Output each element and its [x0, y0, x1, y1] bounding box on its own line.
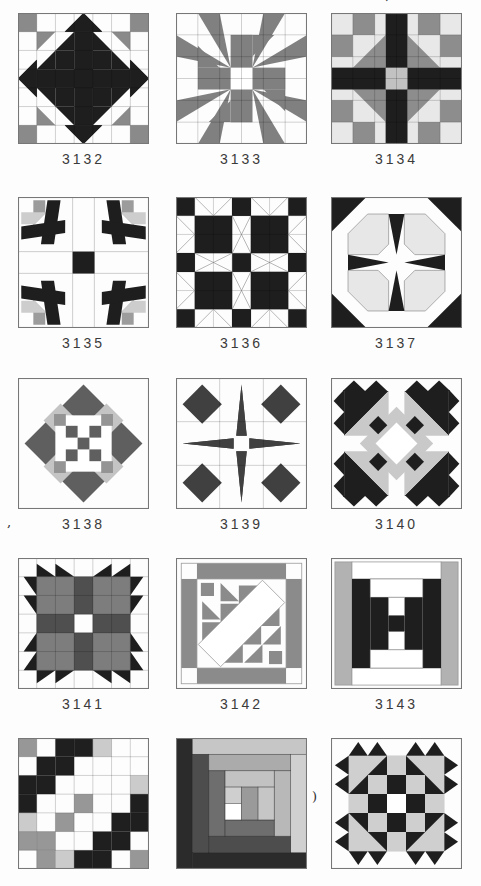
- quilt-block-block-patch-sweep: [18, 738, 149, 869]
- block-3137-drawing: [331, 197, 462, 328]
- quilt-block-3134: [331, 13, 462, 144]
- block-label: 3134: [331, 151, 462, 169]
- quilt-block-3143: [331, 558, 462, 689]
- block-3138-drawing: [18, 378, 149, 509]
- stray-mark: ’: [385, 0, 389, 11]
- block-label: 3142: [176, 696, 307, 714]
- quilt-block-3142: [176, 558, 307, 689]
- block-label: 3133: [176, 151, 307, 169]
- block-label: 3141: [18, 696, 149, 714]
- quilt-block-block-corner-stars: [331, 738, 462, 869]
- block-label: 3136: [176, 335, 307, 353]
- block-3139-drawing: [176, 378, 307, 509]
- block-3134-drawing: [331, 13, 462, 144]
- block-patch-sweep-drawing: [18, 738, 149, 869]
- block-3142-drawing: [176, 558, 307, 689]
- block-label: 3137: [331, 335, 462, 353]
- quilt-block-3138: [18, 378, 149, 509]
- quilt-block-3133: [176, 13, 307, 144]
- block-3132-drawing: [18, 13, 149, 144]
- block-label: 3138: [18, 516, 149, 534]
- quilt-block-3137: [331, 197, 462, 328]
- block-label: 3140: [331, 516, 462, 534]
- block-label: 3143: [331, 696, 462, 714]
- block-3141-drawing: [18, 558, 149, 689]
- quilt-block-3135: [18, 197, 149, 328]
- block-log-cabin-drawing: [176, 738, 307, 869]
- block-3133-drawing: [176, 13, 307, 144]
- stray-mark: ): [312, 789, 317, 804]
- block-3136-drawing: [176, 197, 307, 328]
- quilt-block-3139: [176, 378, 307, 509]
- block-3135-drawing: [18, 197, 149, 328]
- quilt-catalog-page: { "page": { "bg": "#fdfdfd", "descriptio…: [0, 0, 481, 886]
- quilt-block-3141: [18, 558, 149, 689]
- block-3143-drawing: [331, 558, 462, 689]
- block-label: 3132: [18, 151, 149, 169]
- quilt-block-block-log-cabin: [176, 738, 307, 869]
- block-label: 3135: [18, 335, 149, 353]
- stray-mark: ,: [7, 514, 11, 529]
- block-label: 3139: [176, 516, 307, 534]
- quilt-block-3136: [176, 197, 307, 328]
- quilt-block-3140: [331, 378, 462, 509]
- block-corner-stars-drawing: [331, 738, 462, 869]
- block-3140-drawing: [331, 378, 462, 509]
- quilt-block-3132: [18, 13, 149, 144]
